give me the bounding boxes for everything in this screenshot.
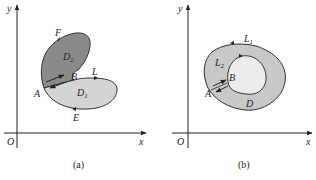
x-axis-label-b: x — [305, 136, 311, 147]
label-f: F — [54, 27, 62, 38]
label-b-b: B — [229, 72, 235, 83]
panel-a: O x y F B L A E D2 D1 (a) — [4, 3, 146, 171]
y-axis-label-a: y — [6, 3, 12, 14]
y-axis-label-b: y — [177, 3, 183, 14]
label-a-a: A — [33, 88, 41, 99]
panel-b: O x y L1 L2 B A D (b) — [172, 3, 312, 171]
label-l: L — [91, 66, 98, 77]
label-b-a: B — [71, 71, 77, 82]
label-a-b: A — [204, 88, 212, 99]
caption-a: (a) — [73, 159, 84, 171]
origin-label-b: O — [177, 136, 184, 147]
label-d: D — [245, 98, 254, 109]
origin-label-a: O — [7, 136, 14, 147]
label-e: E — [72, 112, 79, 123]
diagram-canvas: O x y F B L A E D2 D1 (a) O x y — [0, 0, 316, 180]
x-axis-label-a: x — [138, 136, 144, 147]
caption-b: (b) — [238, 159, 250, 171]
